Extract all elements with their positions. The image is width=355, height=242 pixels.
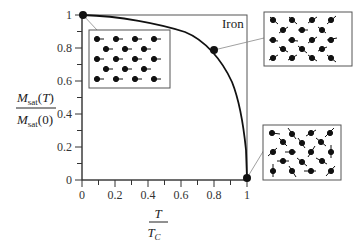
inset-ordered-spins <box>89 30 170 88</box>
y-tick-0.4: 0.4 <box>57 107 72 121</box>
x-tick-0.8: 0.8 <box>207 188 222 202</box>
svg-text:Msat(0): Msat(0) <box>16 112 53 129</box>
x-axis <box>82 180 247 187</box>
point-t1 <box>243 174 251 182</box>
x-tick-0.2: 0.2 <box>108 188 123 202</box>
svg-text:TC: TC <box>147 225 161 242</box>
y-axis-label: Msat(T) Msat(0) <box>16 90 56 129</box>
y-tick-0.2: 0.2 <box>57 140 72 154</box>
y-tick-1: 1 <box>66 8 72 22</box>
x-tick-0.6: 0.6 <box>174 188 189 202</box>
x-tick-0: 0 <box>79 188 85 202</box>
y-axis <box>75 15 82 180</box>
y-tick-0.6: 0.6 <box>57 74 72 88</box>
y-tick-labels: 0 0.2 0.4 0.6 0.8 1 <box>57 8 72 187</box>
x-tick-0.4: 0.4 <box>141 188 156 202</box>
point-t0 <box>79 11 87 19</box>
inset-random-spins <box>263 125 341 180</box>
x-tick-labels: 0 0.2 0.4 0.6 0.8 1 <box>79 188 250 202</box>
y-tick-0: 0 <box>66 173 72 187</box>
svg-text:T: T <box>154 206 162 221</box>
magnetization-chart: 0 0.2 0.4 0.6 0.8 1 0 0.2 0.4 0.6 0.8 1 … <box>0 0 355 242</box>
inset-partial-spins <box>264 12 352 66</box>
svg-text:Msat(T): Msat(T) <box>16 90 54 107</box>
point-t08 <box>210 46 218 54</box>
y-tick-0.8: 0.8 <box>57 41 72 55</box>
x-tick-1: 1 <box>244 188 250 202</box>
material-label: Iron <box>222 16 244 31</box>
x-axis-label: T TC <box>147 206 168 242</box>
